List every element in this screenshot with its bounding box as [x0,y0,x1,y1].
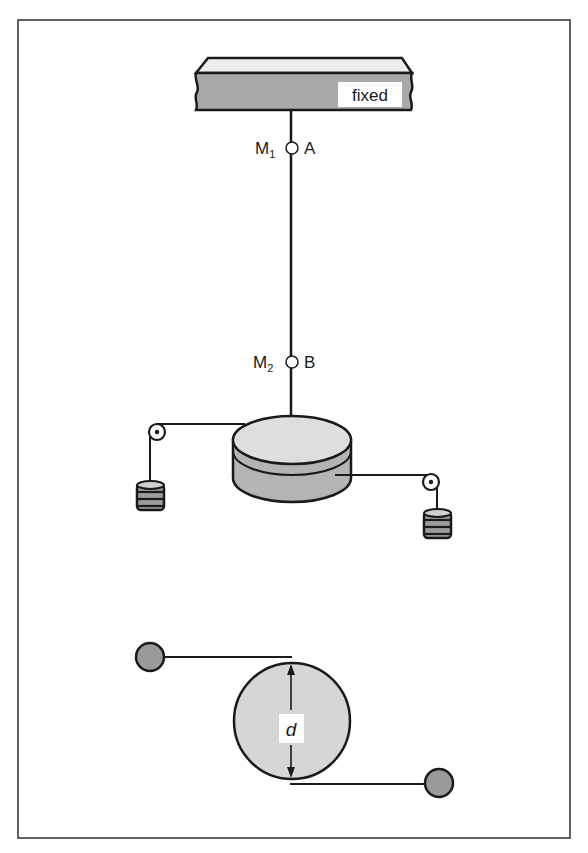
fixed-support: fixed [196,58,413,110]
support-top-face [196,58,412,73]
point-a-label: A [304,139,316,158]
left-weight-stack [137,481,164,510]
mirror-marker-b [286,356,298,368]
left-pulley-axle [155,430,159,434]
mirror-marker-a [286,142,298,154]
fixed-label: fixed [352,86,388,105]
mark-m2-label: M2 [253,353,273,374]
right-weight-stack [424,509,451,538]
cylinder-top [233,416,351,464]
mark-m1-label: M1 [255,139,275,160]
top-view: d [136,643,453,797]
top-view-right-pulley [425,769,453,797]
top-view-left-pulley [136,643,164,671]
point-b-label: B [304,353,315,372]
torsion-pendulum-diagram: fixed M1 A M2 B [0,0,588,853]
right-pulley-axle [429,480,433,484]
cylinder [233,416,351,502]
diameter-label: d [286,719,298,740]
